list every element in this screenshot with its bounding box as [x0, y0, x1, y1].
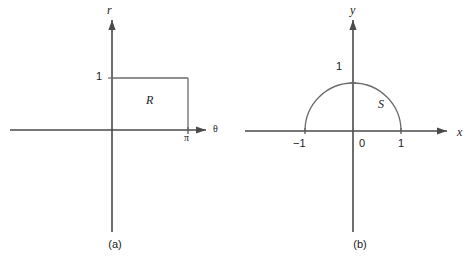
theta-axis-label: θ	[213, 124, 218, 134]
region-label-S: S	[378, 98, 384, 110]
x-axis-label: x	[457, 126, 462, 138]
r-axis-arrowhead	[108, 20, 115, 30]
region-label-R: R	[146, 94, 153, 106]
panel-a-caption: (a)	[85, 238, 145, 250]
r-axis-label: r	[107, 4, 112, 16]
y-tick-label-1: 1	[336, 61, 342, 72]
x-tick-label-neg-1: −1	[293, 138, 306, 149]
panel-b-graphics	[235, 0, 470, 256]
panel-a-graphics	[0, 0, 235, 256]
x-axis-arrowhead	[437, 127, 447, 134]
x-tick-label-1: 1	[398, 138, 404, 149]
r-tick-label-1: 1	[96, 71, 102, 82]
figure-container: r 1 R π θ (a) y 1 −1 0 1 S	[0, 0, 470, 256]
diagram-panel-a: r 1 R π θ (a)	[0, 0, 235, 256]
y-axis-label: y	[350, 4, 355, 16]
y-axis-arrowhead	[349, 20, 356, 30]
x-tick-label-0: 0	[359, 138, 365, 149]
panel-b-caption: (b)	[330, 238, 390, 250]
theta-axis-arrowhead	[196, 126, 206, 133]
theta-tick-label-pi: π	[184, 133, 189, 143]
diagram-panel-b: y 1 −1 0 1 S x (b)	[235, 0, 470, 256]
